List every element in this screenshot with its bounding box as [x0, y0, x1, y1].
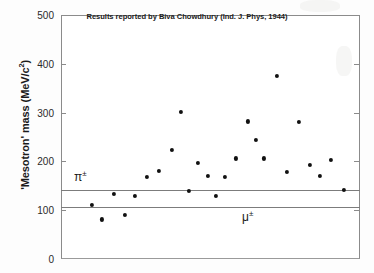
y-axis-label: 'Mesotron' mass (MeV/c2): [17, 25, 31, 225]
plot-area: [61, 15, 360, 259]
y-tick-label: 200: [12, 156, 54, 167]
y-tick-mark: [61, 161, 66, 162]
reference-line: [61, 207, 360, 208]
y-tick-mark: [61, 64, 66, 65]
y-tick-mark-right: [354, 161, 359, 162]
y-tick-label: 300: [12, 107, 54, 118]
scan-artifact-2: [300, 0, 340, 12]
reference-line: [61, 190, 360, 191]
reference-line-label: μ±: [242, 209, 253, 224]
chart-figure: 'Mesotron' mass (MeV/c2) Results reporte…: [0, 0, 374, 273]
y-tick-mark: [61, 210, 66, 211]
y-tick-label: 500: [12, 10, 54, 21]
y-tick-mark: [61, 113, 66, 114]
y-tick-label: 100: [12, 205, 54, 216]
reference-line-label: π±: [74, 169, 87, 184]
y-tick-mark-right: [354, 64, 359, 65]
chart-title: Results reported by Biva Chowdhury (Ind.…: [0, 12, 374, 21]
y-tick-mark-right: [354, 210, 359, 211]
y-tick-mark-right: [354, 113, 359, 114]
y-tick-label: 400: [12, 58, 54, 69]
y-tick-label: 0: [12, 254, 54, 265]
scan-artifact: [336, 46, 352, 76]
